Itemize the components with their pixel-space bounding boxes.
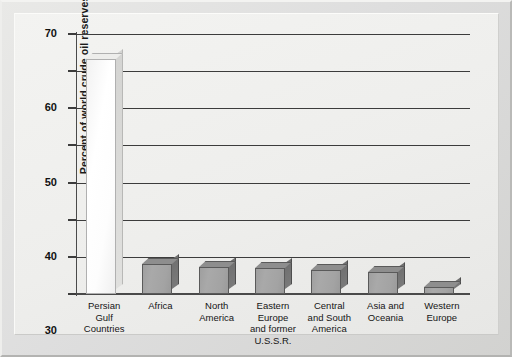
gridline: [76, 108, 470, 109]
y-axis-tick-label: 60: [45, 101, 57, 113]
bar: [86, 59, 116, 294]
figure-frame: Percent of world crude oil reserves, 199…: [0, 0, 512, 357]
bar-side-face: [116, 49, 123, 289]
x-axis-category-label: Central and South America: [301, 300, 357, 335]
bar-front-face: [199, 267, 229, 294]
bar-front-face: [255, 268, 285, 294]
x-axis-category-label: Asia and Oceania: [357, 300, 413, 323]
y-axis-tick-label: 70: [45, 27, 57, 39]
bar-front-face: [142, 264, 172, 294]
bar: [311, 270, 341, 294]
gridline: [76, 34, 470, 35]
y-axis-tick: 40: [68, 144, 76, 146]
x-axis-category-label: Eastern Europe and former U.S.S.R.: [245, 300, 301, 346]
bar: [199, 267, 229, 294]
bar: [255, 268, 285, 294]
x-axis-category-label: Western Europe: [414, 300, 470, 323]
gridline: [76, 145, 470, 146]
bar: [142, 264, 172, 294]
gridline: [76, 183, 470, 184]
y-axis-tick: 70: [68, 33, 76, 35]
bar: [424, 287, 454, 294]
y-axis-tick: 10: [68, 256, 76, 258]
y-axis-tick: 20: [68, 219, 76, 221]
bar-front-face: [311, 270, 341, 294]
y-axis-tick: 60: [68, 70, 76, 72]
bar-chart: Percent of world crude oil reserves, 199…: [22, 18, 492, 338]
y-axis-tick-label: 50: [45, 176, 57, 188]
bar-front-face: [368, 272, 398, 294]
gridline: [76, 220, 470, 221]
x-axis-category-label: Africa: [132, 300, 188, 312]
bar-front-face: [424, 287, 454, 294]
y-axis-tick: 50: [68, 107, 76, 109]
plot-area: 706050403020100: [76, 34, 470, 294]
y-axis-tick-label: 30: [45, 324, 57, 336]
bar: [368, 272, 398, 294]
y-axis-tick-label: 40: [45, 250, 57, 262]
gridline: [76, 257, 470, 258]
y-axis-tick: 0: [68, 293, 76, 295]
gridline: [76, 71, 470, 72]
y-axis-tick: 30: [68, 182, 76, 184]
bar-front-face: [86, 59, 116, 294]
x-axis-category-label: North America: [189, 300, 245, 323]
x-axis-category-label: Persian Gulf Countries: [76, 300, 132, 335]
